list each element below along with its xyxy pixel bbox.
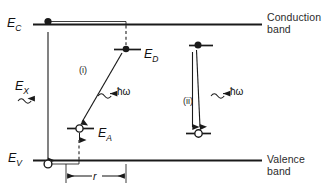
transition-marker-ii: (ii) xyxy=(183,96,193,106)
conduction-band-caption: Conductionband xyxy=(267,11,321,35)
exciton-energy-label: EX xyxy=(15,79,29,93)
pair-separation-label: r xyxy=(93,170,97,182)
photon-energy-label-i: ħω xyxy=(117,86,130,98)
figure-canvas: EC EV Conductionband Valenceband ED EA E… xyxy=(0,0,325,192)
hole-marker-close-pair xyxy=(195,130,202,137)
photon-squiggle-exciton xyxy=(18,99,35,104)
valence-band-caption: Valenceband xyxy=(267,153,305,177)
photon-squiggle-close-pair xyxy=(211,94,230,99)
electron-marker-close-pair xyxy=(195,42,202,49)
close-pair-acceptor-level xyxy=(186,130,211,137)
conduction-band-edge-label: EC xyxy=(7,16,21,30)
hole-on-valence-band xyxy=(44,160,52,168)
donor-level-ED xyxy=(114,46,141,53)
valence-band-edge-label: EV xyxy=(8,151,22,165)
acceptor-level-label: EA xyxy=(98,126,112,140)
close-pair-donor-level xyxy=(189,42,213,49)
photon-squiggle-distant-pair xyxy=(98,94,117,99)
electron-on-conduction-band xyxy=(44,18,51,25)
distant-pair-transition-line xyxy=(82,53,122,122)
hole-marker-acceptor xyxy=(76,125,83,132)
acceptor-level-EA xyxy=(67,125,94,140)
electron-marker-donor xyxy=(123,46,130,53)
donor-level-label: ED xyxy=(144,47,158,61)
photon-energy-label-ii: ħω xyxy=(230,86,243,98)
close-pair-transition-lines xyxy=(193,50,201,127)
transition-marker-i: (i) xyxy=(79,65,87,75)
